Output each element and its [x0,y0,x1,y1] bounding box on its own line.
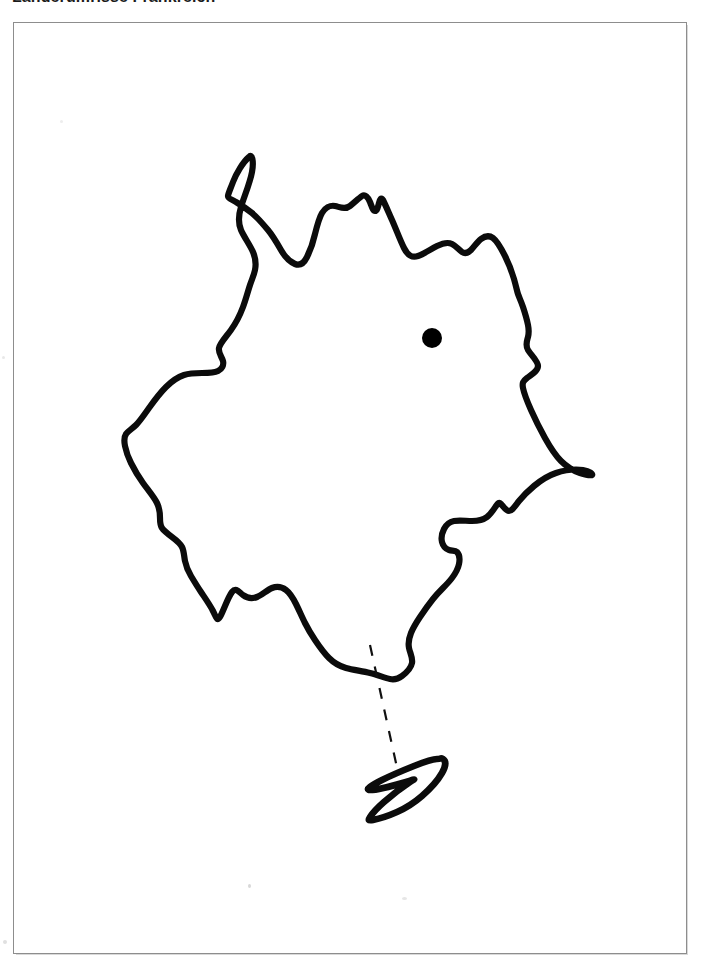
worksheet-page: Länderumrisse Frankreich [0,0,709,971]
map-frame [13,22,687,954]
page-title: Länderumrisse Frankreich [12,0,215,6]
scan-speck [2,356,5,359]
scan-speck [3,940,7,944]
